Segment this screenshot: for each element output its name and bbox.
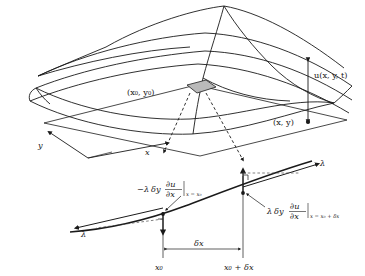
left-force-partial-numerator: ∂u [166,179,176,189]
left-force-lambda: λ [143,184,149,194]
tick-left-label: x₀ [155,262,164,272]
membrane-wave-diagram: (x₀, y₀) u(x, y, t) (x, y) [0,0,365,276]
axis-x-label: x [145,147,150,157]
right-force-delta-y: δy [274,206,284,216]
tick-right-label: x₀ + δx [224,262,254,272]
right-force-partial-denominator: ∂x [290,211,299,221]
right-force-evaluated-at: x = x₀ + δx [310,213,339,219]
axis-y-label: y [37,140,43,150]
right-force-partial-numerator: ∂u [290,201,300,211]
left-force-evaluated-at: x = x₀ [186,191,202,197]
right-force-lambda: λ [266,206,272,216]
label-point-x0y0: (x₀, y₀) [127,87,154,97]
canvas-background [0,0,365,276]
span-label: δx [194,238,204,248]
left-force-partial-denominator: ∂x [166,189,175,199]
label-displacement: u(x, y, t) [314,70,348,80]
label-lambda-right: λ [319,158,325,168]
figure-canvas: (x₀, y₀) u(x, y, t) (x, y) [0,0,365,276]
left-force-sign: − [137,184,144,194]
label-point-xy: (x, y) [273,117,294,127]
label-lambda-left: λ [80,229,86,239]
left-force-delta-y: δy [151,184,161,194]
point-xy-dot [306,120,310,124]
